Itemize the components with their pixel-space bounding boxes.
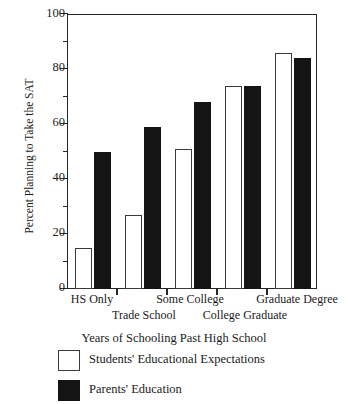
x-category-label-trade-school: Trade School [96,308,192,323]
bar-parents-college-graduate [244,86,261,290]
y-tick-minor [63,41,68,42]
bar-parents-some-college [194,102,211,289]
bar-students-trade-school [125,215,142,289]
y-tick-label: 20 [25,226,65,239]
y-tick-label: 100 [25,7,65,20]
bar-parents-graduate-degree [294,58,311,289]
x-axis-title: Years of Schooling Past High School [0,331,348,346]
x-category-label-hs-only: HS Only [56,292,128,307]
y-tick-label: 40 [25,171,65,184]
y-tick-minor [63,96,68,97]
legend-swatch-students [58,350,80,371]
y-tick-minor [63,261,68,262]
x-category-label-college-graduate: College Graduate [188,308,302,323]
y-tick-label: 60 [25,116,65,129]
legend-label-parents: Parents' Education [89,382,182,397]
bar-parents-trade-school [144,127,161,289]
bar-parents-hs-only [94,152,111,290]
y-tick-minor [63,206,68,207]
axis-line-right [316,14,317,289]
x-category-label-some-college: Some College [142,292,238,307]
y-tick-label: 80 [25,61,65,74]
legend-swatch-parents [58,380,80,401]
bar-students-some-college [175,149,192,289]
legend-label-students: Students' Educational Expectations [89,352,265,367]
axis-line-top [67,14,317,15]
bar-chart-figure: Percent Planning to Take the SAT 0 20 40… [0,0,348,404]
x-category-label-graduate-degree: Graduate Degree [240,292,348,307]
bar-students-hs-only [75,248,92,289]
bar-students-graduate-degree [275,53,292,290]
bar-students-college-graduate [225,86,242,290]
y-tick-minor [63,151,68,152]
plot-area: 0 20 40 60 80 100 [67,14,317,289]
